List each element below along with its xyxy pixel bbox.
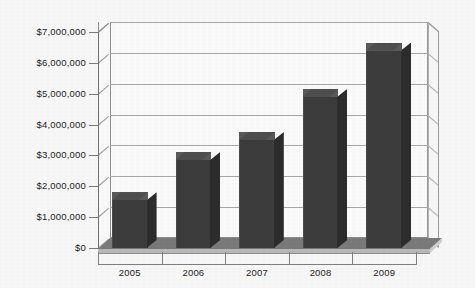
value-axis-label: $3,000,000 [36,150,86,160]
frame-right-inner-edge [428,22,429,238]
right-wall-depth-line [428,146,439,156]
value-axis-label: $6,000,000 [36,58,86,68]
frame-right-top-edge [428,22,439,32]
value-axis-label: $2,000,000 [36,181,86,191]
frame-right-vertical-edge [438,31,439,247]
right-wall-depth-line [428,115,439,125]
bar-side-face [401,43,411,248]
category-axis-label: 2008 [289,268,353,278]
value-axis-tick [89,217,98,218]
category-axis-label: 2009 [352,268,416,278]
bar-front-face [176,159,212,248]
bar-top-face [112,192,148,200]
right-wall-depth-line [428,176,439,186]
value-axis-label: $0 [75,243,86,253]
category-axis-tick [225,252,226,265]
bar [303,89,339,248]
value-axis-tick [89,248,98,249]
value-axis-tick [89,125,98,126]
right-wall-depth-line [428,84,439,94]
bar-top-face [176,152,212,160]
category-axis-tick [352,252,353,265]
value-axis-labels: $0$1,000,000$2,000,000$3,000,000$4,000,0… [0,0,86,288]
gridline [110,22,428,23]
bar-top-face-inner [366,43,402,51]
value-axis-tick [89,32,98,33]
category-axis-tick [416,252,417,265]
bar-front-face [239,139,275,248]
value-axis-label: $5,000,000 [36,89,86,99]
bar-front-face [366,50,402,248]
right-wall-depth-line [428,53,439,63]
category-axis-tick [98,252,99,265]
bar-top-face-inner [176,152,212,160]
value-axis-label: $4,000,000 [36,120,86,130]
bar [366,43,402,248]
value-axis-line [98,32,99,249]
right-wall-depth-line [428,207,439,217]
bar [112,192,148,248]
value-axis-tick [89,186,98,187]
category-axis-tick [162,252,163,265]
bar-side-face [210,152,220,248]
bar [176,152,212,248]
category-axis-tick [289,252,290,265]
bar-top-face-inner [112,192,148,200]
bar-side-face [274,132,284,248]
bar-top-face-inner [303,89,339,97]
category-axis-label: 2007 [225,268,289,278]
bar-top-face [366,43,402,51]
category-axis-label: 2006 [161,268,225,278]
plot-floor-front [98,249,430,254]
bar-top-face-inner [239,132,275,140]
bar-side-face [337,89,347,248]
value-axis-tick [89,63,98,64]
category-axis-label: 2005 [98,268,162,278]
value-axis-label: $7,000,000 [36,27,86,37]
value-axis-tick [89,155,98,156]
value-axis-tick [89,94,98,95]
bar-front-face [112,199,148,248]
bar-top-face [303,89,339,97]
value-axis-label: $1,000,000 [36,212,86,222]
bar-top-face [239,132,275,140]
bar-side-face [147,192,157,248]
bar [239,132,275,248]
category-axis-line [98,264,416,265]
bar-front-face [303,96,339,248]
chart-page: $0$1,000,000$2,000,000$3,000,000$4,000,0… [0,0,475,288]
